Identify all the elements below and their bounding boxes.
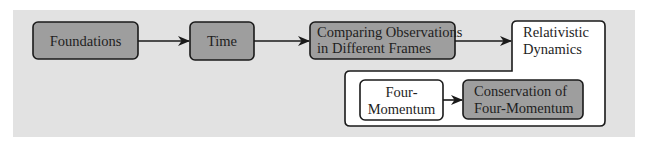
node-foundations: Foundations	[33, 22, 138, 59]
node-comparing-line1: Comparing Observations	[317, 24, 463, 40]
node-time: Time	[190, 22, 254, 60]
node-four-momentum-line1: Four-	[386, 84, 418, 100]
node-foundations-label: Foundations	[50, 33, 122, 49]
node-comparing-line2: in Different Frames	[317, 40, 431, 56]
flow-diagram: Foundations Time Comparing Observations …	[0, 0, 650, 142]
node-four-momentum: Four- Momentum	[360, 80, 443, 120]
node-four-momentum-line2: Momentum	[368, 101, 436, 117]
node-comparing-observations: Comparing Observations in Different Fram…	[310, 22, 463, 59]
node-conservation-of-four-momentum: Conservation of Four-Momentum	[463, 80, 583, 119]
node-conservation-line1: Conservation of	[474, 83, 567, 99]
node-relativistic-line2: Dynamics	[523, 41, 582, 57]
node-relativistic-line1: Relativistic	[523, 24, 589, 40]
node-conservation-line2: Four-Momentum	[474, 100, 574, 116]
node-time-label: Time	[207, 33, 237, 49]
